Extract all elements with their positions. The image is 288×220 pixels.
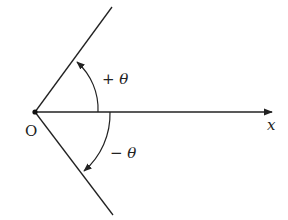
positive-angle-arc (77, 62, 98, 112)
angle-diagram: O x + θ − θ (0, 0, 288, 220)
upper-ray (35, 7, 112, 112)
positive-angle-label: + θ (102, 70, 128, 88)
origin-point (32, 109, 37, 114)
x-axis-label: x (267, 116, 276, 134)
lower-ray (35, 112, 113, 215)
negative-angle-label: − θ (110, 144, 136, 162)
negative-angle-arc (84, 112, 110, 171)
origin-label: O (25, 122, 37, 140)
